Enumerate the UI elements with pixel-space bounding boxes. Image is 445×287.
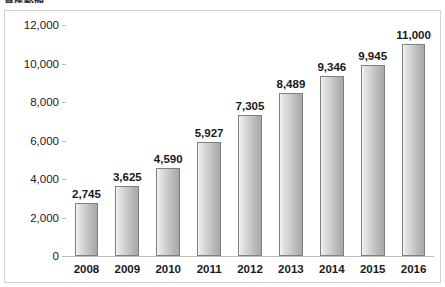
y-axis-tick-label: 6,000 bbox=[30, 135, 59, 147]
y-axis-tick-label: 2,000 bbox=[30, 212, 59, 224]
x-axis-tick-label: 2011 bbox=[189, 263, 230, 275]
bar[interactable] bbox=[75, 203, 99, 256]
bar-value-label: 4,590 bbox=[154, 153, 183, 165]
chart-plot-frame: 12,00010,0008,0006,0004,0002,0000 2,7453… bbox=[4, 10, 441, 283]
bar[interactable] bbox=[197, 142, 221, 256]
x-axis: 200820092010201120122013201420152016 bbox=[66, 259, 434, 279]
x-axis-tick-label: 2016 bbox=[393, 263, 434, 275]
x-axis-tick-label: 2008 bbox=[66, 263, 107, 275]
bar[interactable] bbox=[279, 93, 303, 256]
bar-value-label: 2,745 bbox=[72, 188, 101, 200]
y-axis: 12,00010,0008,0006,0004,0002,0000 bbox=[11, 25, 59, 256]
y-axis-tick-label: 8,000 bbox=[30, 96, 59, 108]
category-axis-line bbox=[66, 256, 434, 257]
y-axis-tick-label: 12,000 bbox=[24, 19, 59, 31]
chart-title: 資産総額 bbox=[4, 0, 44, 3]
bar-slot: 7,305 bbox=[230, 25, 271, 256]
bar-slot: 4,590 bbox=[148, 25, 189, 256]
bar-slot: 8,489 bbox=[270, 25, 311, 256]
bar-value-label: 7,305 bbox=[236, 100, 265, 112]
bar-value-label: 3,625 bbox=[113, 171, 142, 183]
y-axis-tick-label: 4,000 bbox=[30, 173, 59, 185]
bar[interactable] bbox=[156, 168, 180, 256]
x-axis-tick-label: 2010 bbox=[148, 263, 189, 275]
bar[interactable] bbox=[320, 76, 344, 256]
bar-series: 2,7453,6254,5905,9277,3058,4899,3469,945… bbox=[66, 25, 434, 256]
x-axis-tick-label: 2009 bbox=[107, 263, 148, 275]
bar-value-label: 8,489 bbox=[277, 78, 306, 90]
bar[interactable] bbox=[361, 65, 385, 256]
bar-slot: 3,625 bbox=[107, 25, 148, 256]
y-axis-tick-label: 0 bbox=[53, 250, 59, 262]
bar-slot: 11,000 bbox=[393, 25, 434, 256]
bar-slot: 9,945 bbox=[352, 25, 393, 256]
plot-wrapper: 12,00010,0008,0006,0004,0002,0000 2,7453… bbox=[5, 11, 440, 282]
bar-chart: 資産総額 12,00010,0008,0006,0004,0002,0000 2… bbox=[0, 0, 445, 287]
bar-slot: 5,927 bbox=[189, 25, 230, 256]
bar-value-label: 5,927 bbox=[195, 127, 224, 139]
bar-value-label: 9,945 bbox=[358, 50, 387, 62]
bar-slot: 2,745 bbox=[66, 25, 107, 256]
x-axis-tick-label: 2015 bbox=[352, 263, 393, 275]
bar[interactable] bbox=[238, 115, 262, 256]
bar-slot: 9,346 bbox=[311, 25, 352, 256]
bar-value-label: 9,346 bbox=[317, 61, 346, 73]
bar[interactable] bbox=[402, 44, 426, 256]
bar[interactable] bbox=[115, 186, 139, 256]
y-axis-tick-label: 10,000 bbox=[24, 58, 59, 70]
x-axis-tick-label: 2012 bbox=[230, 263, 271, 275]
x-axis-tick-label: 2013 bbox=[270, 263, 311, 275]
bar-value-label: 11,000 bbox=[396, 29, 431, 41]
x-axis-tick-label: 2014 bbox=[311, 263, 352, 275]
plot-area: 2,7453,6254,5905,9277,3058,4899,3469,945… bbox=[66, 25, 434, 256]
